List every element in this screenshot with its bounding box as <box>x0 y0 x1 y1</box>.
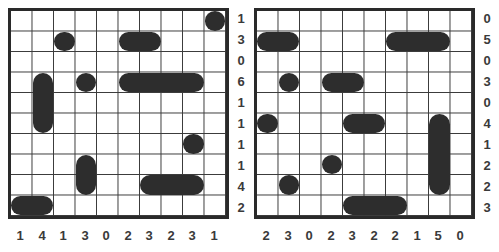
ship-segment <box>257 32 299 52</box>
row-clue: 3 <box>479 72 495 92</box>
row-clue: 6 <box>233 72 249 92</box>
row-clue: 5 <box>479 30 495 50</box>
submarine-ship <box>322 155 343 175</box>
submarine-ship <box>279 175 300 195</box>
row-clue: 1 <box>233 156 249 176</box>
row-clue: 3 <box>233 30 249 50</box>
ship-segment <box>33 73 54 134</box>
battleship-grid-right[interactable] <box>254 8 475 219</box>
row-clue: 2 <box>479 156 495 176</box>
submarine-ship <box>279 73 300 93</box>
col-clue: 4 <box>32 228 52 243</box>
submarine-ship <box>205 11 226 31</box>
row-clue: 1 <box>233 93 249 113</box>
col-clue: 0 <box>96 228 116 243</box>
col-clue: 5 <box>428 228 448 243</box>
col-clue: 1 <box>53 228 73 243</box>
col-clue: 2 <box>385 228 405 243</box>
col-clue: 2 <box>256 228 276 243</box>
row-clues-left: 1 3 0 6 1 1 1 1 4 2 <box>233 8 249 219</box>
ship-segment <box>119 73 204 93</box>
col-clue: 3 <box>139 228 159 243</box>
row-clue: 1 <box>479 135 495 155</box>
ship-segment <box>386 32 450 52</box>
row-clue: 4 <box>479 114 495 134</box>
row-clue: 0 <box>479 93 495 113</box>
row-clue: 2 <box>479 177 495 197</box>
col-clue: 1 <box>204 228 224 243</box>
col-clue: 2 <box>118 228 138 243</box>
col-clue: 3 <box>278 228 298 243</box>
col-clue: 2 <box>321 228 341 243</box>
row-clue: 0 <box>479 51 495 71</box>
submarine-ship <box>54 32 75 52</box>
col-clue: 1 <box>10 228 30 243</box>
battleship-grid-left[interactable] <box>8 8 229 219</box>
col-clue: 1 <box>407 228 427 243</box>
col-clues-right: 2 3 0 2 3 2 2 1 5 0 <box>254 228 475 244</box>
row-clue: 3 <box>479 198 495 218</box>
col-clue: 3 <box>182 228 202 243</box>
col-clue: 2 <box>161 228 181 243</box>
col-clue: 3 <box>75 228 95 243</box>
col-clue: 0 <box>299 228 319 243</box>
col-clue: 0 <box>450 228 470 243</box>
row-clue: 0 <box>479 9 495 29</box>
row-clues-right: 0 5 0 3 0 4 1 2 2 3 <box>479 8 495 219</box>
row-clue: 4 <box>233 177 249 197</box>
ship-segment <box>343 114 385 134</box>
submarine-ship <box>183 134 204 154</box>
ship-segment <box>343 196 407 216</box>
ship-segment <box>429 114 450 195</box>
row-clue: 0 <box>233 51 249 71</box>
col-clue: 3 <box>342 228 362 243</box>
submarine-ship <box>257 114 278 134</box>
ship-segment <box>11 196 53 216</box>
ship-segment <box>322 73 364 93</box>
row-clue: 1 <box>233 9 249 29</box>
ship-segment <box>119 32 161 52</box>
row-clue: 2 <box>233 198 249 218</box>
row-clue: 1 <box>233 114 249 134</box>
col-clue: 2 <box>364 228 384 243</box>
ship-segment <box>140 175 204 195</box>
row-clue: 1 <box>233 135 249 155</box>
ship-segment <box>76 155 97 195</box>
col-clues-left: 1 4 1 3 0 2 3 2 3 1 <box>8 228 229 244</box>
submarine-ship <box>76 73 97 93</box>
